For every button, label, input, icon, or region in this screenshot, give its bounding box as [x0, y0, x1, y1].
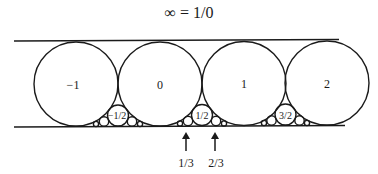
arrow-label-2-3: 2/3 [208, 156, 223, 170]
label-minus-1: −1 [67, 78, 80, 92]
ford-circles-diagram: ∞ = 1/0 −1 0 1 2 −1/2 1/2 3/2 [0, 0, 378, 174]
circle-minus-1-3 [127, 117, 136, 126]
label-1-2: 1/2 [196, 110, 209, 121]
arrow-2-3-head [211, 132, 219, 139]
circle-2-3 [211, 116, 220, 125]
circle-1-3 [183, 116, 192, 125]
circle-tiny [304, 120, 309, 125]
circle-4-3 [267, 116, 276, 125]
label-3-2: 3/2 [279, 110, 292, 121]
top-line [14, 40, 339, 42]
arrow-1-3-head [182, 132, 190, 139]
label-0: 0 [157, 78, 163, 92]
circle-5-3 [295, 116, 304, 125]
circle-labels: −1 0 1 2 −1/2 1/2 3/2 [67, 77, 330, 121]
arrow-label-1-3: 1/3 [178, 156, 193, 170]
label-minus-1-2: −1/2 [108, 110, 126, 121]
label-2: 2 [324, 77, 330, 91]
title: ∞ = 1/0 [165, 4, 214, 21]
label-1: 1 [241, 77, 247, 91]
circle-tiny [93, 121, 98, 126]
arrows [182, 132, 219, 151]
